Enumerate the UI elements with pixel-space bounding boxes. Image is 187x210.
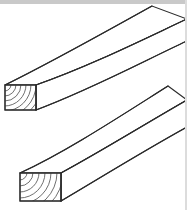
lumber-drawing xyxy=(0,0,187,210)
illustration-canvas xyxy=(0,0,187,210)
